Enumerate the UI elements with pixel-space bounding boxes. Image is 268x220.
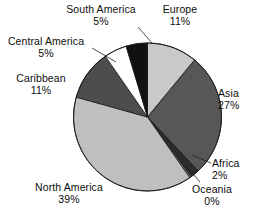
pie-label-asia-name: Asia bbox=[218, 88, 254, 100]
pie-label-north-america: North America 39% bbox=[26, 182, 112, 205]
pie-label-africa-value: 2% bbox=[212, 170, 256, 182]
pie-label-europe-value: 11% bbox=[152, 16, 208, 28]
pie-label-africa: Africa 2% bbox=[212, 158, 256, 181]
pie-label-south-america: South America 5% bbox=[60, 4, 142, 27]
pie-label-central-america-name: Central America bbox=[2, 36, 90, 48]
pie-label-south-america-value: 5% bbox=[60, 16, 142, 28]
pie-label-south-america-name: South America bbox=[60, 4, 142, 16]
pie-label-caribbean-name: Caribbean bbox=[10, 73, 72, 85]
pie-label-europe-name: Europe bbox=[152, 4, 208, 16]
pie-label-oceania: Oceania 0% bbox=[186, 184, 238, 207]
pie-label-europe: Europe 11% bbox=[152, 4, 208, 27]
pie-label-north-america-value: 39% bbox=[26, 194, 112, 206]
pie-label-central-america-value: 5% bbox=[2, 48, 90, 60]
pie-label-caribbean: Caribbean 11% bbox=[10, 73, 72, 96]
pie-label-asia: Asia 27% bbox=[218, 88, 254, 111]
pie-label-oceania-value: 0% bbox=[186, 196, 238, 208]
pie-label-oceania-name: Oceania bbox=[186, 184, 238, 196]
pie-label-caribbean-value: 11% bbox=[10, 85, 72, 97]
pie-slice-group bbox=[74, 43, 222, 191]
pie-label-africa-name: Africa bbox=[212, 158, 256, 170]
leader-line-south-america bbox=[138, 27, 152, 43]
pie-label-asia-value: 27% bbox=[218, 100, 254, 112]
pie-label-central-america: Central America 5% bbox=[2, 36, 90, 59]
pie-chart-figure: Europe 11% South America 5% Central Amer… bbox=[0, 0, 268, 220]
pie-label-north-america-name: North America bbox=[26, 182, 112, 194]
